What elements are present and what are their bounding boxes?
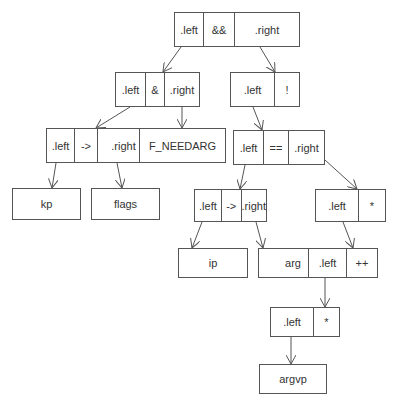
cell-right: .right — [234, 13, 299, 46]
cell-operator: ! — [274, 73, 299, 106]
node-increment: .left ++ — [308, 248, 378, 278]
node-logical-not: .left ! — [230, 72, 300, 107]
cell-left: .left — [47, 129, 74, 162]
cell-operator: && — [203, 13, 234, 46]
edge-arrow1-flags — [117, 163, 122, 188]
cell-operator: == — [263, 131, 288, 164]
cell-operator: -> — [221, 190, 241, 221]
edge-arrow2-arg — [256, 222, 263, 248]
edge-root-not — [260, 47, 275, 72]
cell-left: .left — [116, 73, 145, 106]
cell-operator: -> — [74, 129, 97, 162]
node-dereference-2: .left * — [270, 307, 340, 337]
cell-operator: ++ — [346, 249, 377, 277]
cell-left: .left — [175, 13, 203, 46]
edge-arrow2-ip — [192, 222, 202, 248]
edge-eq-arrow2 — [240, 165, 245, 189]
edge-deref1-inc — [343, 222, 353, 248]
cell-operator: & — [145, 73, 164, 106]
leaf-flags: flags — [91, 188, 160, 220]
node-member-access-1: .left -> .right — [46, 128, 150, 163]
cell-left: .left — [234, 131, 263, 164]
edge-root-and — [163, 47, 181, 72]
node-logical-and: .left && .right — [174, 12, 300, 47]
cell-right: .right — [288, 131, 324, 164]
leaf-f-needarg: F_NEEDARG — [139, 128, 226, 163]
edge-arrow1-kp — [52, 163, 56, 188]
cell-operator: * — [358, 190, 385, 221]
cell-operator: * — [313, 308, 339, 336]
leaf-kp: kp — [12, 188, 81, 220]
node-bitwise-and: .left & .right — [115, 72, 200, 107]
cell-left: .left — [309, 249, 346, 277]
leaf-argvp: argvp — [259, 364, 327, 394]
node-dereference-1: .left * — [315, 189, 386, 222]
cell-left: .left — [195, 190, 221, 221]
cell-left: .left — [271, 308, 313, 336]
expression-tree-diagram: .left && .right .left & .right .left ! .… — [0, 0, 396, 406]
cell-right: .right — [241, 190, 266, 221]
edge-eq-deref1 — [325, 160, 357, 189]
edge-not-eq — [253, 107, 262, 130]
node-equality: .left == .right — [233, 130, 325, 165]
node-member-access-2: .left -> .right — [194, 189, 267, 222]
cell-left: .left — [316, 190, 358, 221]
edge-and-arrow1 — [96, 107, 130, 128]
cell-left: .left — [231, 73, 274, 106]
cell-right: .right — [164, 73, 199, 106]
leaf-ip: ip — [178, 248, 248, 278]
